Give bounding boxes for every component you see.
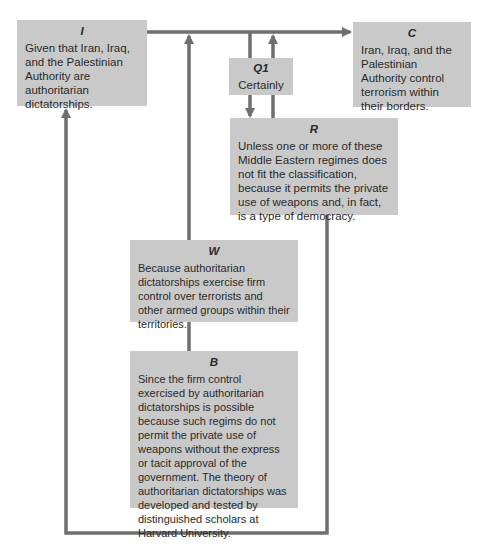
box-b-text: Since the firm control exercised by auth… (138, 372, 290, 540)
box-w-warrant: W Because authoritarian dictatorships ex… (130, 240, 298, 322)
box-b-backing: B Since the firm control exercised by au… (130, 351, 298, 508)
box-i-label: I (25, 24, 139, 38)
box-q1-qualifier: Q1 Certainly (229, 58, 293, 95)
box-w-text: Because authoritarian dictatorships exer… (138, 261, 290, 331)
box-r-label: R (238, 122, 390, 136)
box-b-label: B (138, 355, 290, 369)
box-i-grounds: I Given that Iran, Iraq, and the Palesti… (17, 20, 147, 106)
box-c-label: C (361, 26, 463, 40)
box-c-claim: C Iran, Iraq, and the Palestinian Author… (353, 22, 471, 107)
box-r-rebuttal: R Unless one or more of these Middle Eas… (230, 118, 398, 215)
box-w-label: W (138, 244, 290, 258)
box-c-text: Iran, Iraq, and the Palestinian Authorit… (361, 43, 463, 113)
box-i-text: Given that Iran, Iraq, and the Palestini… (25, 41, 139, 111)
box-r-text: Unless one or more of these Middle Easte… (238, 139, 390, 223)
box-q1-label: Q1 (233, 61, 289, 75)
box-q1-text: Certainly (233, 78, 289, 92)
